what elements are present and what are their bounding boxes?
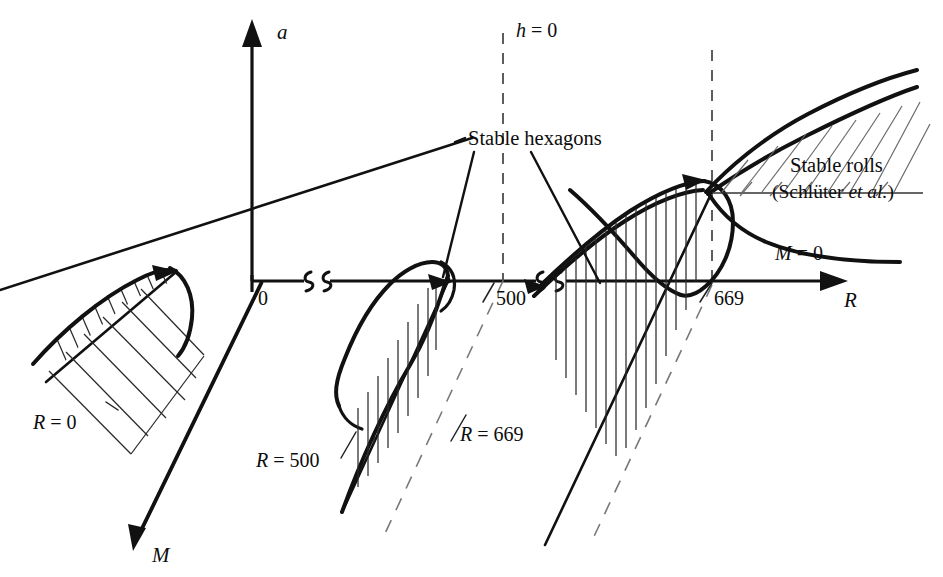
figure-canvas [0,0,943,577]
source-umlaut: ü [813,181,823,202]
amplitude-axis-label: a [277,22,288,43]
hatching-r0 [40,250,230,480]
plane-r500-value: = 500 [273,449,319,471]
plane-edge-r0 [140,283,262,534]
plane-top-edge-line [0,138,472,290]
tick-label-669: 669 [714,288,744,308]
m-zero-label: M= 0 [775,243,823,263]
bifurcation-figure: a R M 0 500 669 h= 0 M= 0 Stable hexagon… [0,0,943,577]
stable-rolls-label: Stable rolls [790,155,883,176]
leader-r500-plane [341,432,356,458]
rayleigh-axis-label: R [844,290,857,311]
amplitude-axis-group [242,19,262,281]
m-zero-variable: M [775,242,797,264]
fold-curve-r0 [170,268,192,356]
plane-label-r669: R= 669 [460,424,524,444]
plane-label-r0: R= 0 [33,412,77,432]
plane-edge-r0-lower [46,272,176,382]
roll-curve-lower [708,87,917,194]
origin-label: 0 [258,288,268,308]
tick-leader-500 [483,283,494,302]
h-zero-label: h= 0 [516,20,557,40]
r669-dashed-group [590,50,712,545]
plane-r0-value: = 0 [50,411,76,433]
stable-hexagons-label: Stable hexagons [468,128,602,149]
tick-label-500: 500 [496,288,526,308]
source-et-al: et al. [848,181,887,202]
hexagon-branch-r500 [336,260,454,512]
source-mid: ter [823,181,848,202]
branch-curve-r0 [33,270,176,364]
plane-r500-variable: R [256,449,273,471]
h-zero-value: = 0 [531,19,557,41]
m-zero-value: = 0 [797,242,823,264]
source-open-paren: (Schl [772,181,813,202]
r669-dashed-diagonal [590,285,712,545]
marangoni-axis-label: M [152,545,170,566]
hexagon-branch-r0 [33,250,230,480]
plane-r0-variable: R [33,411,50,433]
plane-edges-group [0,138,712,545]
amplitude-axis-arrowhead [242,19,262,47]
axis-break-1 [305,272,331,291]
h-zero-variable: h [516,19,531,41]
leader-hexagons-to-r500 [443,152,474,277]
stable-rolls-source-label: (Schlüter et al.) [772,182,894,202]
source-close-paren: ) [887,181,894,202]
hatching-main-lower [556,281,686,456]
plane-r669-value: = 669 [477,423,523,445]
plane-edge-r669 [545,192,712,545]
plane-label-r500: R= 500 [256,450,320,470]
h-zero-dashed-diagonal [382,281,503,540]
hatch-band-r0-lower-edge [131,356,204,454]
plane-r669-variable: R [460,423,477,445]
